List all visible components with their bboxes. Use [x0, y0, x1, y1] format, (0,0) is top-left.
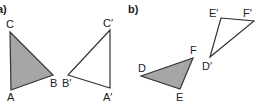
vertex-b-prime-label: B′ [62, 77, 71, 89]
triangle-abc [10, 32, 53, 90]
vertex-d-label: D [138, 62, 146, 74]
vertex-c-label: C [6, 18, 14, 30]
vertex-c-prime-label: C′ [103, 17, 113, 29]
diagram-canvas: a) C B A C′ B′ A′ b) D F E E′ F′ D′ [0, 0, 256, 106]
part-a-label: a) [0, 3, 7, 15]
part-a: a) C B A C′ B′ A′ [0, 3, 113, 103]
vertex-d-prime-label: D′ [202, 60, 212, 72]
vertex-b-label: B [50, 77, 57, 89]
part-b: b) D F E E′ F′ D′ [128, 3, 254, 103]
vertex-e-prime-label: E′ [209, 7, 218, 19]
vertex-e-label: E [176, 91, 183, 103]
vertex-a-label: A [7, 91, 15, 103]
vertex-f-label: F [190, 44, 197, 56]
vertex-f-prime-label: F′ [243, 7, 252, 19]
triangle-d-prime-e-prime-f-prime [210, 18, 254, 57]
part-b-label: b) [128, 3, 139, 15]
vertex-a-prime-label: A′ [103, 91, 112, 103]
triangle-def [141, 58, 193, 89]
triangle-a-prime-b-prime-c-prime [68, 30, 110, 88]
reflection-diagram: a) C B A C′ B′ A′ b) D F E E′ F′ D′ [0, 0, 256, 106]
